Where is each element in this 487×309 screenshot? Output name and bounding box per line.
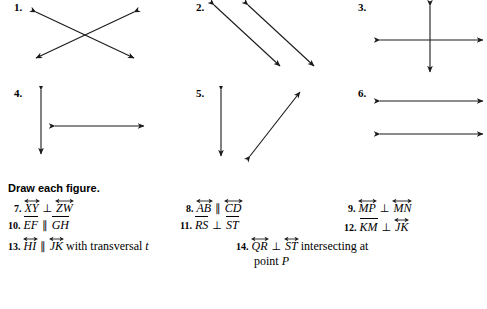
problem-item-12: 12. KM ⊥ JK: [344, 217, 408, 235]
segment-notation: KM: [360, 219, 378, 234]
problem-number: 9.: [348, 203, 356, 214]
parallel-symbol: ∥: [39, 240, 47, 253]
problem-number: 14.: [236, 241, 249, 252]
problem-row-2: 10. EF ∥ GH 11. RS ⊥ ST 12. KM ⊥ JK: [0, 217, 487, 236]
line-notation: HI: [24, 236, 37, 253]
problem-line-2: point P: [236, 254, 486, 269]
perpendicular-symbol: ⊥: [211, 219, 223, 232]
problem-item-8: 8. AB ∥ CD: [186, 198, 241, 216]
line-notation: CD: [225, 198, 242, 215]
figure-cell-1: 1.: [0, 0, 162, 82]
problem-item-11: 11. RS ⊥ ST: [180, 217, 239, 233]
problem-list: 7. XY ⊥ ZW 8. AB ∥ CD 9. MP ⊥ MN 10. EF …: [0, 198, 487, 270]
vertical-and-horizontal-lines-t-shape-icon: [0, 86, 162, 168]
line-notation: ST: [285, 236, 298, 254]
problem-item-9: 9. MP ⊥ MN: [348, 198, 411, 216]
perpendicular-symbol: ⊥: [271, 240, 283, 253]
line-notation: JK: [395, 217, 408, 234]
line-notation: MN: [393, 198, 411, 215]
line-notation: ZW: [56, 198, 73, 215]
figure-cell-5: 5.: [182, 86, 344, 168]
perpendicular-symbol: ⊥: [379, 202, 391, 215]
problem-number: 8.: [186, 203, 194, 214]
segment-notation: RS: [195, 217, 208, 232]
problem-number: 11.: [180, 220, 192, 231]
problem-item-10: 10. EF ∥ GH: [8, 217, 69, 233]
problem-text: with transversal: [66, 239, 142, 253]
line-notation: AB: [197, 198, 212, 215]
problem-number: 7.: [14, 203, 22, 214]
two-intersecting-lines-x-shape-icon: [0, 0, 162, 82]
segment-notation: EF: [24, 217, 39, 232]
perpendicular-symbol: ⊥: [381, 221, 393, 234]
parallel-symbol: ∥: [41, 219, 49, 232]
problem-number: 13.: [8, 241, 21, 252]
vertical-and-diagonal-lines-icon: [182, 86, 344, 168]
problem-item-7: 7. XY ⊥ ZW: [14, 198, 73, 216]
segment-notation: ST: [226, 217, 239, 232]
problem-item-14: 14. QR ⊥ ST intersecting atpoint P: [236, 236, 486, 269]
perpendicular-cross-lines-icon: [344, 0, 487, 82]
problem-row-1: 7. XY ⊥ ZW 8. AB ∥ CD 9. MP ⊥ MN: [0, 198, 487, 217]
figure-cell-2: 2.: [182, 0, 344, 82]
line-notation: JK: [50, 236, 63, 253]
figure-cell-3: 3.: [344, 0, 487, 82]
variable-label: P: [282, 254, 289, 268]
problem-text: intersecting at: [301, 239, 369, 253]
figure-cell-6: 6.: [344, 86, 487, 168]
line-notation: QR: [252, 236, 268, 254]
problem-line-1: QR ⊥ ST intersecting at: [252, 239, 369, 253]
two-parallel-diagonal-lines-icon: [182, 0, 344, 82]
segment-notation: GH: [52, 217, 69, 232]
variable-label: t: [145, 239, 148, 253]
worksheet-page: 1. 2. 3.: [0, 0, 487, 309]
figure-cell-4: 4.: [0, 86, 162, 168]
line-notation: MP: [359, 198, 376, 215]
instruction-text: Draw each figure.: [8, 182, 100, 195]
parallel-symbol: ∥: [214, 202, 222, 215]
problem-number: 12.: [344, 222, 357, 233]
line-notation: XY: [25, 198, 39, 215]
problem-text: point: [254, 254, 279, 268]
figure-grid: 1. 2. 3.: [0, 0, 487, 172]
perpendicular-symbol: ⊥: [42, 202, 54, 215]
problem-number: 10.: [8, 220, 21, 231]
problem-row-3: 13. HI ∥ JK with transversal t 14. QR ⊥ …: [0, 236, 487, 270]
problem-item-13: 13. HI ∥ JK with transversal t: [8, 236, 149, 254]
two-parallel-horizontal-lines-icon: [344, 86, 487, 168]
